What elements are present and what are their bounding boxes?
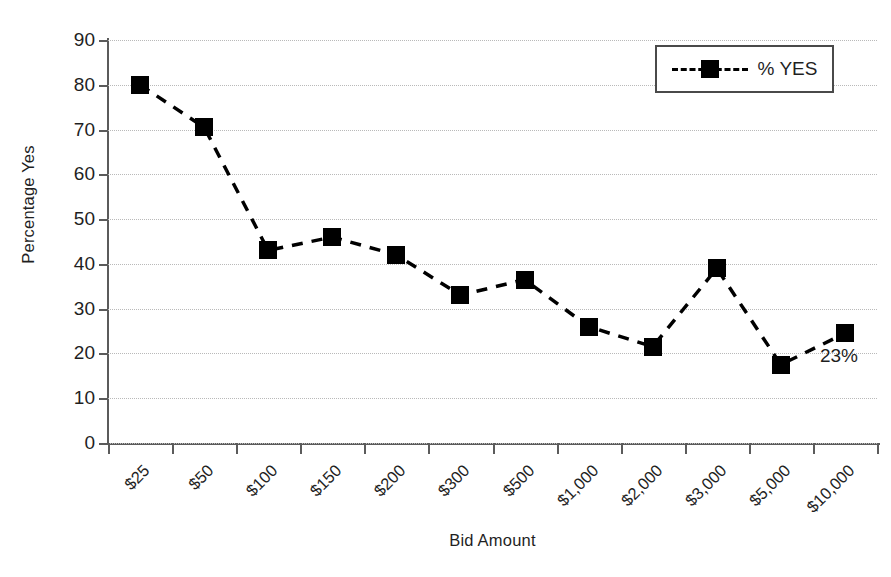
y-tick-label: 90 — [74, 29, 95, 51]
y-tick-mark — [99, 398, 108, 400]
y-tick-label: 30 — [74, 298, 95, 320]
data-point-marker — [708, 259, 726, 277]
legend-item-label: % YES — [758, 58, 818, 80]
plot-area: 0102030405060708090 $25$50$100$150$200$3… — [108, 40, 877, 443]
x-tick-mark — [236, 443, 238, 454]
y-tick-label: 20 — [74, 342, 95, 364]
y-tick-mark — [99, 264, 108, 266]
y-tick-label: 40 — [74, 253, 95, 275]
y-axis-title: Percentage Yes — [19, 115, 38, 295]
data-point-marker — [580, 318, 598, 336]
x-tick-mark — [364, 443, 366, 454]
data-point-marker — [195, 118, 213, 136]
y-tick-mark — [99, 443, 108, 445]
x-tick-label: $25 — [20, 461, 154, 577]
y-tick-mark — [99, 130, 108, 132]
x-axis-title: Bid Amount — [108, 531, 877, 550]
y-tick-label: 60 — [74, 163, 95, 185]
series-line — [108, 40, 877, 443]
y-tick-mark — [99, 353, 108, 355]
y-tick-label: 0 — [84, 432, 95, 454]
x-tick-mark — [108, 443, 110, 454]
y-tick-label: 10 — [74, 387, 95, 409]
x-tick-mark — [172, 443, 174, 454]
y-tick-mark — [99, 40, 108, 42]
y-tick-label: 80 — [74, 74, 95, 96]
chart-legend: % YES — [655, 45, 834, 93]
data-point-marker — [836, 324, 854, 342]
data-point-marker — [387, 246, 405, 264]
x-tick-mark — [557, 443, 559, 454]
data-point-marker — [323, 228, 341, 246]
y-tick-mark — [99, 174, 108, 176]
x-tick-mark — [300, 443, 302, 454]
data-label-annotation: 23% — [820, 345, 858, 367]
data-point-marker — [451, 286, 469, 304]
data-point-marker — [259, 241, 277, 259]
y-tick-label: 70 — [74, 119, 95, 141]
y-tick-mark — [99, 309, 108, 311]
data-point-marker — [772, 356, 790, 374]
data-point-marker — [131, 76, 149, 94]
x-tick-mark — [685, 443, 687, 454]
x-tick-mark — [877, 443, 879, 454]
legend-square-icon — [701, 60, 719, 78]
y-tick-mark — [99, 85, 108, 87]
x-tick-mark — [813, 443, 815, 454]
y-tick-mark — [99, 219, 108, 221]
y-tick-label: 50 — [74, 208, 95, 230]
data-point-marker — [516, 271, 534, 289]
x-tick-mark — [428, 443, 430, 454]
chart-figure: Percentage Yes 0102030405060708090 $25$5… — [0, 0, 891, 577]
x-tick-mark — [493, 443, 495, 454]
x-tick-mark — [749, 443, 751, 454]
x-tick-mark — [621, 443, 623, 454]
legend-marker-sample — [672, 59, 748, 79]
data-point-marker — [644, 338, 662, 356]
